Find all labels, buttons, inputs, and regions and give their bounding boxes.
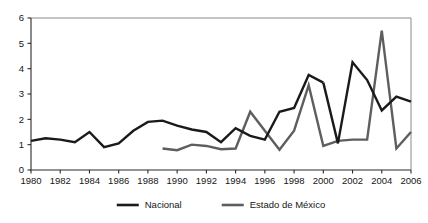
x-tick-label: 1996 — [254, 175, 275, 186]
line-chart-figure: 0123456198019821984198619881990199219941… — [0, 0, 428, 223]
y-tick-label: 0 — [19, 164, 24, 175]
legend-label-2: Estado de México — [250, 199, 326, 210]
plot-frame — [31, 18, 411, 170]
series-line-nacional — [31, 75, 323, 147]
y-tick-label: 2 — [19, 114, 24, 125]
x-tick-label: 2004 — [371, 175, 392, 186]
x-tick-label: 1982 — [50, 175, 71, 186]
x-tick-label: 1990 — [167, 175, 188, 186]
y-tick-label: 6 — [19, 12, 24, 23]
legend-label-1: Nacional — [145, 199, 182, 210]
x-tick-label: 1994 — [225, 175, 246, 186]
x-tick-label: 1980 — [20, 175, 41, 186]
x-tick-label: 1998 — [284, 175, 305, 186]
y-tick-label: 4 — [19, 63, 24, 74]
x-tick-label: 2000 — [313, 175, 334, 186]
x-tick-label: 1992 — [196, 175, 217, 186]
plot-axes — [31, 18, 411, 170]
x-tick-label: 2002 — [342, 175, 363, 186]
x-tick-label: 1986 — [108, 175, 129, 186]
x-tick-label: 1988 — [137, 175, 158, 186]
y-tick-label: 3 — [19, 88, 24, 99]
series-line-estado-de-mexico — [163, 31, 411, 151]
chart-canvas: 0123456198019821984198619881990199219941… — [0, 0, 428, 223]
x-tick-label: 2006 — [400, 175, 421, 186]
x-tick-label: 1984 — [79, 175, 100, 186]
y-tick-label: 1 — [19, 139, 24, 150]
y-tick-label: 5 — [19, 38, 24, 49]
